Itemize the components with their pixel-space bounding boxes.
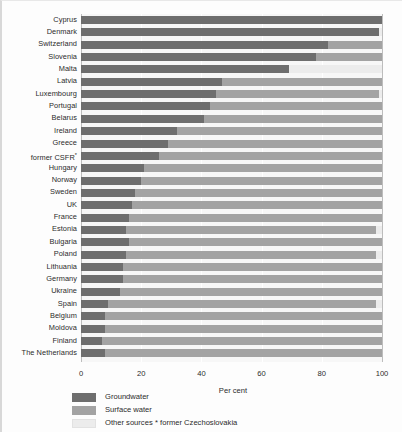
bar-segment-surface [141,177,382,185]
x-tick-label: 100 [370,369,394,378]
bar-row [81,189,382,197]
bar-segment-other [376,251,382,259]
category-label: Spain [1,300,77,308]
bar-segment-groundwater [81,189,135,197]
bar-segment-surface [105,312,382,320]
category-label: The Netherlands [1,349,77,357]
bar-segment-surface [102,337,382,345]
x-tick-label: 0 [69,369,93,378]
category-label: Hungary [1,164,77,172]
category-label: Denmark [1,28,77,36]
bar-row [81,300,382,308]
bar-segment-other [379,28,382,36]
category-label: Estonia [1,225,77,233]
bar-row [81,325,382,333]
legend-label: Surface water [105,405,152,414]
category-label: Latvia [1,77,77,85]
bar-segment-groundwater [81,312,105,320]
bar-segment-groundwater [81,288,120,296]
bar-segment-surface [144,164,382,172]
bar-segment-surface [216,90,379,98]
bar-row [81,78,382,86]
bar-row [81,288,382,296]
category-label: Switzerland [1,40,77,48]
bar-row [81,90,382,98]
bar-segment-other [376,300,382,308]
bar-row [81,226,382,234]
category-label: former CSFR* [1,151,77,162]
legend-item[interactable]: Surface water [72,404,392,417]
bar-segment-surface [123,263,382,271]
bar-segment-surface [204,115,382,123]
bar-segment-groundwater [81,201,132,209]
bar-segment-groundwater [81,325,105,333]
bar-segment-surface [108,300,376,308]
x-tick-label: 60 [250,369,274,378]
category-label: Slovenia [1,53,77,61]
category-label: Cyprus [1,16,77,24]
bar-row [81,140,382,148]
category-label: Belgium [1,312,77,320]
x-tick-label: 20 [129,369,153,378]
bar-segment-other [376,226,382,234]
bar-row [81,214,382,222]
bar-segment-surface [132,201,382,209]
bar-segment-surface [126,226,376,234]
bar-segment-groundwater [81,152,159,160]
bar-segment-surface [210,102,382,110]
bar-row [81,53,382,61]
bar-segment-groundwater [81,337,102,345]
bar-segment-groundwater [81,28,379,36]
category-label: Portugal [1,102,77,110]
bar-row [81,312,382,320]
category-label: Bulgaria [1,238,77,246]
bar-row [81,337,382,345]
x-tick-label: 40 [189,369,213,378]
category-label: Belarus [1,114,77,122]
category-label: France [1,213,77,221]
bar-segment-other [379,90,382,98]
bar-segment-surface [120,288,382,296]
legend-label: Other sources [105,418,153,427]
bar-row [81,115,382,123]
bar-segment-groundwater [81,53,316,61]
bar-segment-groundwater [81,226,126,234]
category-label: Moldova [1,324,77,332]
bar-segment-groundwater [81,102,210,110]
bar-segment-surface [129,214,382,222]
legend-label: Groundwater [105,392,149,401]
bar-segment-surface [168,140,382,148]
bar-row [81,41,382,49]
gridline [382,14,383,362]
category-label: Lithuania [1,263,77,271]
bar-row [81,263,382,271]
footnote-text: * former Czechoslovakia [155,418,237,427]
bar-row [81,65,382,73]
stacked-bar-chart: CyprusDenmarkSwitzerlandSloveniaMaltaLat… [0,0,402,432]
bar-segment-surface [328,41,382,49]
bar-row [81,164,382,172]
bar-segment-groundwater [81,238,129,246]
bar-segment-groundwater [81,140,168,148]
bar-segment-groundwater [81,164,144,172]
legend-item[interactable]: Groundwater [72,391,392,404]
bar-segment-groundwater [81,16,382,24]
bar-row [81,349,382,357]
bar-row [81,16,382,24]
bar-segment-surface [129,238,382,246]
bar-row [81,201,382,209]
bar-segment-surface [105,325,382,333]
bar-segment-surface [159,152,382,160]
category-label: Sweden [1,188,77,196]
category-label: Ireland [1,127,77,135]
bar-segment-groundwater [81,349,105,357]
bar-segment-groundwater [81,65,289,73]
category-label: Norway [1,176,77,184]
bar-row [81,177,382,185]
bar-segment-surface [177,127,382,135]
category-label: Luxembourg [1,90,77,98]
bar-segment-groundwater [81,115,204,123]
category-label: UK [1,201,77,209]
legend-swatch [72,406,96,415]
legend-swatch [72,419,96,428]
